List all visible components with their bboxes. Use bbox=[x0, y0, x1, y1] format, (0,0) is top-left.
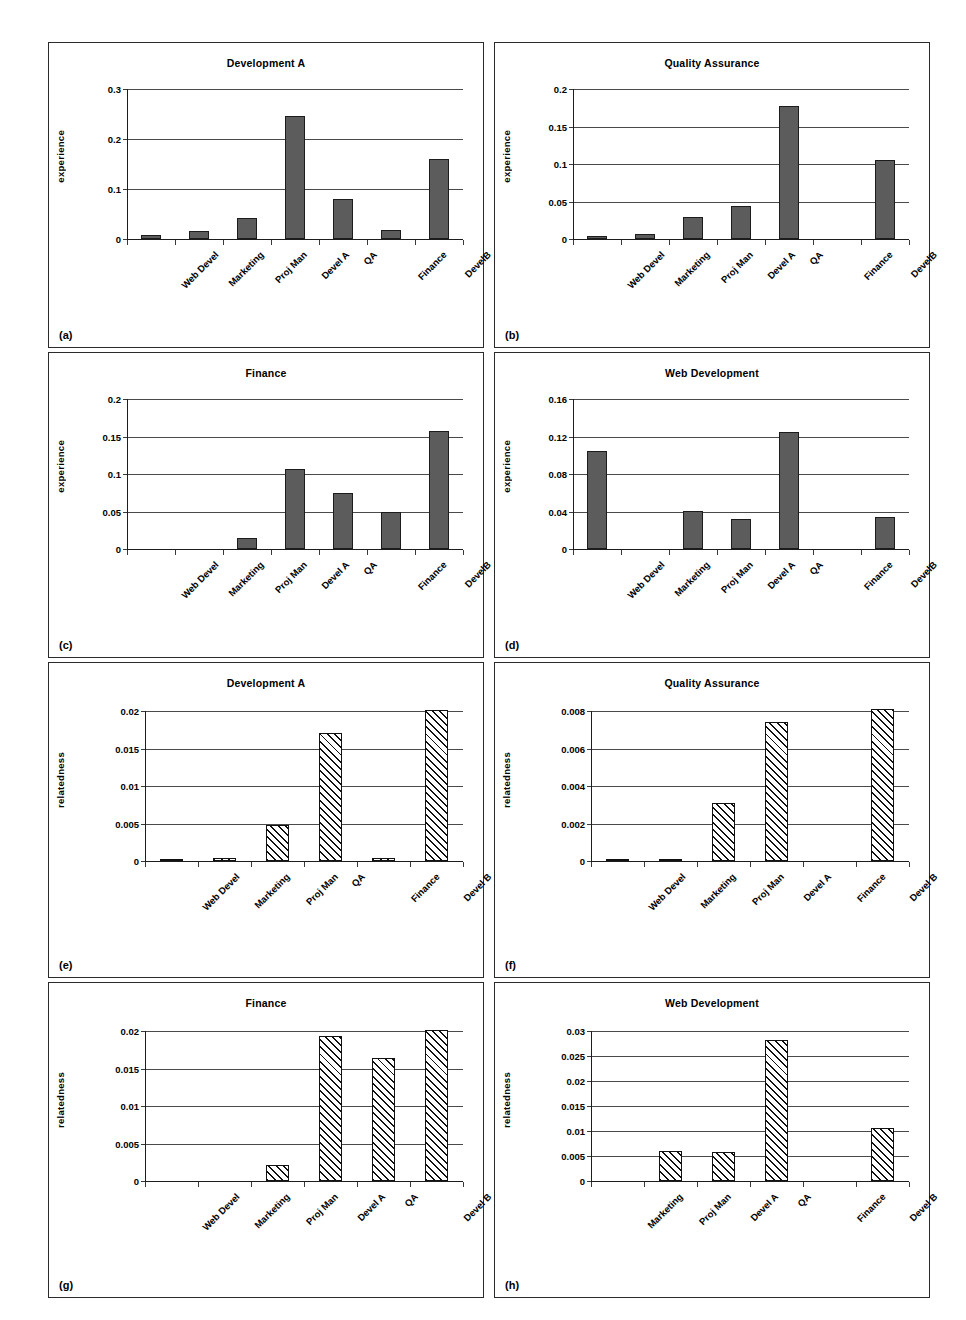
y-axis-tick-label: 0 bbox=[75, 856, 139, 867]
y-axis-tick-label: 0.015 bbox=[75, 743, 139, 754]
x-tick-mark bbox=[319, 240, 320, 245]
bar bbox=[683, 511, 703, 549]
x-axis-tick-label: Devel B bbox=[461, 1191, 493, 1223]
x-tick-mark bbox=[127, 550, 128, 555]
y-axis bbox=[145, 711, 146, 861]
gridline bbox=[591, 1081, 909, 1082]
bar bbox=[160, 859, 182, 861]
gridline bbox=[145, 1069, 463, 1070]
gridline bbox=[591, 711, 909, 712]
y-axis-tick-label: 0 bbox=[521, 234, 567, 245]
panel-tag: (a) bbox=[59, 329, 72, 341]
x-tick-mark bbox=[304, 1182, 305, 1187]
bar bbox=[333, 199, 353, 239]
x-tick-mark bbox=[591, 1182, 592, 1187]
y-axis bbox=[127, 399, 128, 549]
x-axis-tick-label: Proj Man bbox=[303, 871, 339, 907]
x-tick-mark bbox=[145, 862, 146, 867]
bar bbox=[875, 160, 895, 239]
x-tick-mark bbox=[765, 240, 766, 245]
y-axis-tick-label: 0.015 bbox=[521, 1101, 585, 1112]
x-axis-tick-label: Marketing bbox=[672, 249, 712, 289]
y-axis-tick-label: 0 bbox=[521, 856, 585, 867]
y-axis-label: experience bbox=[55, 130, 66, 183]
bar bbox=[333, 493, 353, 549]
gridline bbox=[573, 512, 909, 513]
panel-tag: (e) bbox=[59, 959, 72, 971]
bar bbox=[429, 431, 449, 549]
gridline bbox=[145, 824, 463, 825]
bar bbox=[285, 116, 305, 240]
x-tick-mark bbox=[198, 862, 199, 867]
x-axis-tick-label: Proj Man bbox=[273, 559, 309, 595]
plot-area: 00.0050.010.0150.02relatednessWeb DevelM… bbox=[145, 711, 463, 861]
bar bbox=[659, 1151, 681, 1182]
y-axis-tick-label: 0.01 bbox=[75, 781, 139, 792]
x-axis-tick-label: Marketing bbox=[226, 249, 266, 289]
x-tick-mark bbox=[319, 550, 320, 555]
y-axis-tick-label: 0.002 bbox=[521, 818, 585, 829]
gridline bbox=[127, 437, 463, 438]
x-tick-mark bbox=[717, 240, 718, 245]
y-axis-tick-label: 0 bbox=[75, 544, 121, 555]
bar bbox=[765, 1040, 787, 1181]
panel-title: Finance bbox=[49, 367, 483, 379]
x-axis-tick-label: Devel A bbox=[765, 559, 797, 591]
x-tick-mark bbox=[251, 1182, 252, 1187]
x-axis-tick-label: Marketing bbox=[252, 1191, 292, 1231]
y-axis-tick-label: 0 bbox=[75, 234, 121, 245]
x-axis-tick-label: Marketing bbox=[252, 871, 292, 911]
bar bbox=[189, 231, 209, 240]
panel-title: Web Development bbox=[495, 997, 929, 1009]
y-axis-tick-label: 0.005 bbox=[75, 1138, 139, 1149]
bar bbox=[587, 451, 607, 549]
x-axis bbox=[573, 549, 909, 550]
x-tick-mark bbox=[644, 1182, 645, 1187]
y-axis-tick-label: 0.15 bbox=[521, 121, 567, 132]
x-axis-tick-label: Marketing bbox=[226, 559, 266, 599]
x-axis bbox=[127, 549, 463, 550]
chart-panel-e: Development A(e)00.0050.010.0150.02relat… bbox=[48, 662, 484, 978]
x-axis-tick-label: Marketing bbox=[698, 871, 738, 911]
x-axis-tick-label: Devel B bbox=[907, 871, 939, 903]
gridline bbox=[145, 1031, 463, 1032]
panel-tag: (h) bbox=[505, 1279, 519, 1291]
bar bbox=[266, 825, 288, 861]
y-axis bbox=[591, 1031, 592, 1181]
y-axis-label: experience bbox=[55, 440, 66, 493]
chart-panel-b: Quality Assurance(b)00.050.10.150.2exper… bbox=[494, 42, 930, 348]
y-axis-tick-label: 0.1 bbox=[521, 159, 567, 170]
x-axis-tick-label: Web Devel bbox=[179, 559, 221, 601]
y-axis-tick-label: 0.025 bbox=[521, 1051, 585, 1062]
gridline bbox=[573, 127, 909, 128]
bar bbox=[429, 159, 449, 240]
x-axis-tick-label: Web Devel bbox=[200, 871, 242, 913]
chart-panel-d: Web Development(d)00.040.080.120.16exper… bbox=[494, 352, 930, 658]
bar bbox=[237, 538, 257, 549]
x-axis-tick-label: DevelB bbox=[908, 559, 939, 590]
x-axis-tick-label: Devel A bbox=[765, 249, 797, 281]
x-tick-mark bbox=[813, 240, 814, 245]
gridline bbox=[591, 1056, 909, 1057]
x-tick-mark bbox=[223, 550, 224, 555]
x-tick-mark bbox=[367, 550, 368, 555]
y-axis bbox=[127, 89, 128, 239]
y-axis-tick-label: 0.2 bbox=[75, 134, 121, 145]
x-axis-tick-label: Finance bbox=[854, 1191, 887, 1224]
x-tick-mark bbox=[198, 1182, 199, 1187]
x-axis-tick-label: Proj Man bbox=[719, 559, 755, 595]
x-axis-tick-label: QA bbox=[361, 559, 379, 577]
chart-panel-a: Development A(a)00.10.20.3experienceWeb … bbox=[48, 42, 484, 348]
y-axis-tick-label: 0.04 bbox=[521, 506, 567, 517]
y-axis-label: relatedness bbox=[55, 1072, 66, 1128]
x-axis-tick-label: Finance bbox=[416, 559, 449, 592]
plot-area: 00.10.20.3experienceWeb DevelMarketingPr… bbox=[127, 89, 463, 239]
x-tick-mark bbox=[861, 550, 862, 555]
x-axis-tick-label: Finance bbox=[862, 559, 895, 592]
x-tick-mark bbox=[357, 862, 358, 867]
x-tick-mark bbox=[909, 862, 910, 867]
x-tick-mark bbox=[856, 1182, 857, 1187]
x-tick-mark bbox=[271, 240, 272, 245]
gridline bbox=[591, 786, 909, 787]
y-axis-tick-label: 0.004 bbox=[521, 781, 585, 792]
